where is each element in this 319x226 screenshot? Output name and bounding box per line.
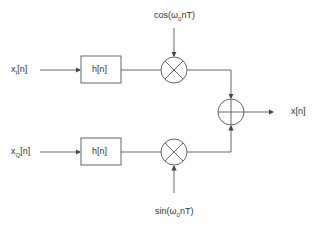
cos-sub: 0 xyxy=(178,16,181,22)
input-i-label: xI[n] xyxy=(11,64,27,74)
input-q-base: x xyxy=(11,146,16,156)
block-diagram xyxy=(0,0,319,226)
carrier-cos-label: cos(ω0nT) xyxy=(154,10,195,20)
cos-post: nT) xyxy=(181,10,195,20)
cos-pre: cos(ω xyxy=(154,10,178,20)
output-label: x[n] xyxy=(291,106,306,116)
input-q-sub: Q xyxy=(16,152,21,158)
input-q-rest: [n] xyxy=(20,146,30,156)
sin-pre: sin(ω xyxy=(155,206,177,216)
sin-post: nT) xyxy=(180,206,194,216)
sin-sub: 0 xyxy=(177,212,180,218)
input-q-label: xQ[n] xyxy=(11,146,30,156)
input-i-base: x xyxy=(11,64,16,74)
input-i-rest: [n] xyxy=(17,64,27,74)
input-i-sub: I xyxy=(16,70,18,76)
filter-label-top: h[n] xyxy=(92,64,107,74)
carrier-sin-label: sin(ω0nT) xyxy=(155,206,193,216)
filter-label-bottom: h[n] xyxy=(92,146,107,156)
